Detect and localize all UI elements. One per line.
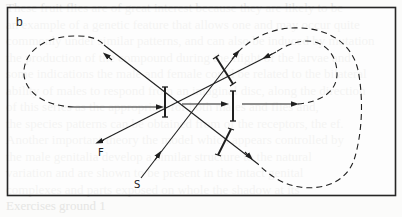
panel-label: b — [16, 15, 23, 29]
optical-path-diagram: b — [0, 0, 402, 217]
figure-frame — [8, 8, 396, 196]
label-f: F — [98, 147, 104, 158]
label-s: S — [134, 179, 140, 190]
